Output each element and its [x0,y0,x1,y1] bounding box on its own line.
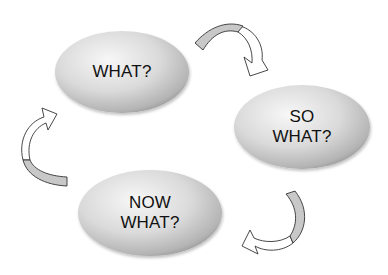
curved-arrow-icon-now-what-to-what [22,108,67,186]
curved-arrow-icon-so-what-to-now-what [242,191,305,254]
node-so-what-label: SO WHAT? [242,107,362,147]
node-what-label: WHAT? [62,62,182,82]
node-so-what-line-2: WHAT? [242,127,362,147]
node-now-what-line-2: WHAT? [90,213,210,233]
node-now-what-line-1: NOW [90,193,210,213]
node-what-line-1: WHAT? [62,62,182,82]
node-now-what-label: NOW WHAT? [90,193,210,233]
curved-arrow-icon-what-to-so-what [195,24,268,76]
node-so-what-line-1: SO [242,107,362,127]
